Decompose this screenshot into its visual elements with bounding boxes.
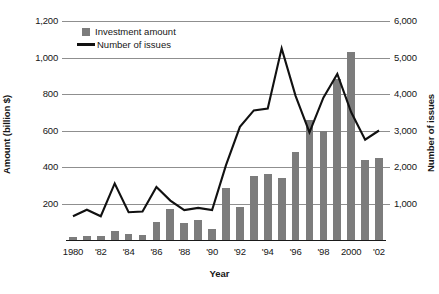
y-tick-label-right: 4,000 <box>394 88 439 99</box>
legend-label: Number of issues <box>97 39 171 50</box>
y-tick-right <box>386 58 390 59</box>
y-tick-label-left: 1,200 <box>14 15 58 26</box>
y-tick-label-right: 5,000 <box>394 52 439 63</box>
y-tick-right <box>386 167 390 168</box>
legend-label: Investment amount <box>95 26 176 37</box>
y-tick-label-left: 800 <box>14 88 58 99</box>
legend-item-investment-amount: Investment amount <box>82 26 176 37</box>
x-tick-label: '02 <box>362 246 396 257</box>
y-tick-label-right: 2,000 <box>394 161 439 172</box>
y-tick-label-right: 6,000 <box>394 15 439 26</box>
legend-swatch-icon <box>82 28 90 36</box>
y-tick-label-left: 600 <box>14 125 58 136</box>
y-tick-right <box>386 21 390 22</box>
y-tick-label-left: 1,000 <box>14 52 58 63</box>
x-axis-title: Year <box>0 268 439 279</box>
y-tick-right <box>386 131 390 132</box>
chart-figure: Amount (billion $) Number of issues Year… <box>0 0 439 294</box>
y-tick-right <box>386 204 390 205</box>
y-tick-right <box>386 94 390 95</box>
y-tick-label-left: 200 <box>14 198 58 209</box>
legend-item-number-of-issues: Number of issues <box>82 39 176 50</box>
line-series-number-of-issues <box>66 21 386 241</box>
y-tick-label-right: 1,000 <box>394 198 439 209</box>
chart-legend: Investment amount Number of issues <box>82 26 176 52</box>
plot-area <box>66 21 386 241</box>
legend-line-icon <box>77 43 95 46</box>
y-tick-label-left: 400 <box>14 161 58 172</box>
y-tick-label-right: 3,000 <box>394 125 439 136</box>
